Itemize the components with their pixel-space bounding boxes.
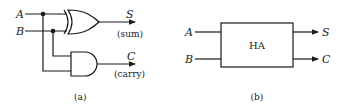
- label-sum-desc: (sum): [117, 29, 143, 39]
- block-label-input-a: A: [184, 26, 193, 39]
- xor-gate: [64, 10, 99, 34]
- label-output-s: S: [126, 8, 134, 21]
- label-input-a: A: [15, 8, 24, 21]
- block-label-output-c: C: [322, 53, 331, 66]
- b-branch-wire: [53, 31, 71, 56]
- junction-dot-a: [41, 12, 46, 17]
- a-branch-wire: [43, 14, 71, 71]
- half-adder-diagram: A B S (sum) C (carry) (a) HA A B S C (b): [0, 0, 344, 107]
- panel-a-gate-circuit: [25, 10, 135, 76]
- ha-block-label: HA: [249, 40, 266, 51]
- caption-b: (b): [251, 92, 264, 102]
- block-label-input-b: B: [184, 53, 193, 66]
- label-carry-desc: (carry): [114, 69, 145, 79]
- junction-dot-b: [51, 29, 56, 34]
- label-input-b: B: [15, 25, 24, 38]
- caption-a: (a): [74, 92, 86, 102]
- and-gate: [71, 52, 97, 76]
- block-label-output-s: S: [322, 26, 330, 39]
- label-output-c: C: [127, 50, 136, 63]
